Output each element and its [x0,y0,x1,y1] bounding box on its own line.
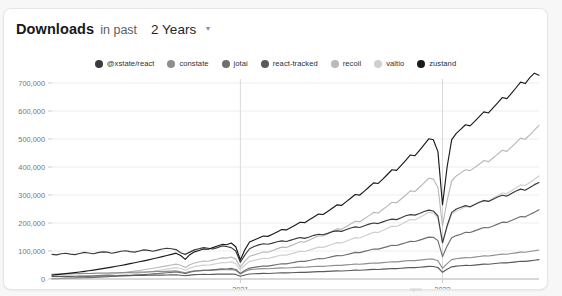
y-axis-label: 100,000 [18,247,45,256]
legend-item-jotai[interactable]: jotai [222,59,248,68]
y-axis-label: 200,000 [18,219,45,228]
y-axis-label: 0 [41,275,45,284]
legend-item-label: constate [179,59,208,68]
x-axis-label: 2022 [434,285,450,289]
legend-item-label: valtio [386,59,404,68]
legend-item-zustand[interactable]: zustand [417,59,456,68]
time-range-select[interactable]: 2 Years ▾ [145,21,214,39]
legend-item-constate[interactable]: constate [167,59,208,68]
downloads-chart-card: Downloads in past 2 Years ▾ @xstate/reac… [3,8,548,290]
chevron-down-icon: ▾ [206,25,210,33]
legend-swatch-icon [417,60,425,68]
legend-item-xstate-react[interactable]: @xstate/react [95,59,155,68]
y-axis-label: 500,000 [18,135,45,144]
legend-item-label: @xstate/react [107,59,155,68]
legend-item-react-tracked[interactable]: react-tracked [261,59,318,68]
legend-item-label: react-tracked [273,59,318,68]
y-axis-label: 300,000 [18,191,45,200]
x-axis-label: 2021 [232,285,248,289]
series-line-recoil [52,125,539,278]
screen-root: Downloads in past 2 Years ▾ @xstate/reac… [0,0,562,296]
y-axis-label: 600,000 [18,107,45,116]
legend-swatch-icon [95,60,103,68]
legend-swatch-icon [331,60,339,68]
chart-legend: @xstate/reactconstatejotaireact-trackedr… [4,59,547,68]
chart-plot-area: 0100,000200,000300,000400,000500,000600,… [4,71,547,289]
legend-swatch-icon [222,60,230,68]
legend-item-valtio[interactable]: valtio [374,59,404,68]
legend-swatch-icon [374,60,382,68]
y-axis-label: 400,000 [18,163,45,172]
time-range-value: 2 Years [151,22,196,37]
legend-item-label: jotai [234,59,248,68]
series-line-xstate-react [52,182,539,262]
series-line-zustand [52,73,539,275]
downloads-line-chart: 0100,000200,000300,000400,000500,000600,… [4,71,547,289]
card-header: Downloads in past 2 Years ▾ [16,21,214,39]
page-title: Downloads [16,21,94,37]
legend-swatch-icon [261,60,269,68]
footnote-label: npm [410,286,422,292]
header-subtitle: in past [100,23,137,37]
series-line-valtio [52,176,539,279]
legend-item-label: recoil [343,59,361,68]
y-axis-label: 700,000 [18,79,45,88]
legend-swatch-icon [167,60,175,68]
legend-item-label: zustand [429,59,456,68]
legend-item-recoil[interactable]: recoil [331,59,361,68]
